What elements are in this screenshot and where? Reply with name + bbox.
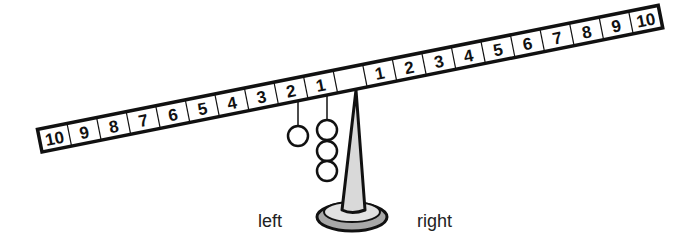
beam-cell-label: 10 (635, 9, 657, 31)
right-label: right (417, 211, 452, 232)
balance-diagram: 1098765432112345678910 (0, 0, 695, 252)
weight (317, 120, 337, 140)
weight (288, 126, 308, 146)
weights (288, 94, 337, 181)
weight (317, 161, 337, 181)
left-label: left (258, 211, 282, 232)
beam-cell-label: 10 (44, 128, 66, 150)
weight (317, 141, 337, 161)
